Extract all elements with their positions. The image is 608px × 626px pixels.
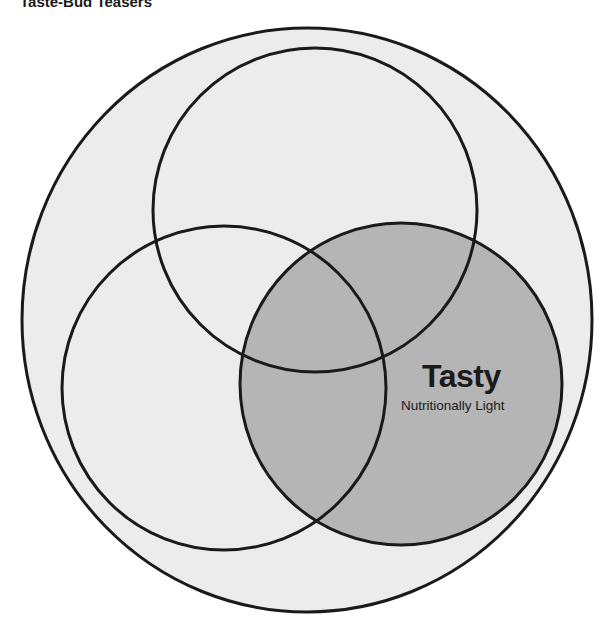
highlight-label-title: Tasty xyxy=(422,358,501,395)
right-circle-highlighted xyxy=(240,223,562,545)
highlight-label-subtitle: Nutritionally Light xyxy=(401,398,505,413)
venn-diagram xyxy=(0,0,608,626)
